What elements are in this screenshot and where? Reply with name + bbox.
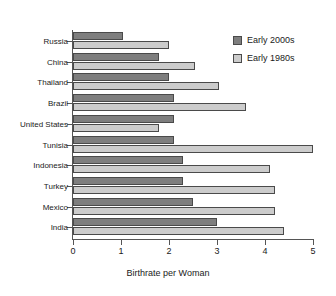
- y-axis-label-tunisia: Tunisia: [43, 141, 69, 150]
- y-axis-label-china: China: [47, 58, 68, 67]
- bar-brazil-recent: [73, 94, 174, 102]
- x-tick-mark: [265, 240, 266, 245]
- x-axis-ticks: 012345: [73, 240, 313, 252]
- y-axis-label-turkey: Turkey: [44, 182, 68, 191]
- x-tick-label-2: 2: [159, 246, 179, 256]
- bar-china-recent: [73, 53, 159, 61]
- bar-united-states-older: [73, 124, 159, 132]
- bar-thailand-recent: [73, 73, 169, 81]
- bar-tunisia-recent: [73, 136, 174, 144]
- bar-united-states-recent: [73, 115, 174, 123]
- y-axis-label-russia: Russia: [44, 37, 68, 46]
- bar-russia-older: [73, 41, 169, 49]
- bar-china-older: [73, 62, 195, 70]
- legend-label-recent: Early 2000s: [247, 35, 295, 45]
- legend-item-older: Early 1980s: [233, 51, 329, 65]
- x-tick-label-4: 4: [255, 246, 275, 256]
- bar-india-older: [73, 227, 284, 235]
- bar-tunisia-older: [73, 145, 313, 153]
- bar-turkey-recent: [73, 177, 183, 185]
- bar-indonesia-older: [73, 165, 270, 173]
- x-tick-label-0: 0: [63, 246, 83, 256]
- y-axis-label-mexico: Mexico: [43, 203, 68, 212]
- y-axis-label-indonesia: Indonesia: [33, 161, 68, 170]
- x-tick-label-3: 3: [207, 246, 227, 256]
- y-axis-label-united-states: United States: [20, 120, 68, 129]
- x-tick-mark: [73, 240, 74, 245]
- bar-chart: RussiaChinaThailandBrazilUnited StatesTu…: [0, 0, 336, 296]
- x-tick-mark: [169, 240, 170, 245]
- bar-thailand-older: [73, 82, 219, 90]
- x-tick-mark: [313, 240, 314, 245]
- legend-swatch-icon-older: [233, 54, 242, 63]
- bar-turkey-older: [73, 186, 275, 194]
- y-axis-label-brazil: Brazil: [48, 99, 68, 108]
- bar-brazil-older: [73, 103, 246, 111]
- bar-indonesia-recent: [73, 156, 183, 164]
- y-axis-labels: RussiaChinaThailandBrazilUnited StatesTu…: [0, 31, 68, 238]
- bar-mexico-older: [73, 207, 275, 215]
- legend-swatch-icon-recent: [233, 36, 242, 45]
- x-tick-mark: [217, 240, 218, 245]
- x-tick-mark: [121, 240, 122, 245]
- bar-india-recent: [73, 218, 217, 226]
- chart-legend: Early 2000s Early 1980s: [233, 33, 329, 69]
- y-axis-label-thailand: Thailand: [37, 78, 68, 87]
- bar-russia-recent: [73, 32, 123, 40]
- legend-item-recent: Early 2000s: [233, 33, 329, 47]
- x-axis-title: Birthrate per Woman: [0, 268, 336, 278]
- y-axis-label-india: India: [51, 223, 68, 232]
- bar-mexico-recent: [73, 198, 193, 206]
- x-tick-label-1: 1: [111, 246, 131, 256]
- legend-label-older: Early 1980s: [247, 53, 295, 63]
- x-tick-label-5: 5: [303, 246, 323, 256]
